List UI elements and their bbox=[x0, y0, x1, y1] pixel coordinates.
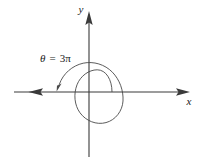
angle-spiral-group bbox=[57, 63, 123, 124]
angle-label: θ=3π bbox=[40, 52, 71, 64]
y-axis-label: y bbox=[78, 3, 84, 15]
x-axis-label: x bbox=[186, 95, 192, 107]
equals-symbol: = bbox=[49, 52, 55, 64]
figure-canvas: x y θ=3π bbox=[0, 0, 204, 166]
polar-angle-figure: x y θ=3π bbox=[0, 0, 204, 166]
theta-symbol: θ bbox=[40, 52, 46, 64]
angle-annotation-group: θ=3π bbox=[40, 52, 71, 64]
angle-spiral-path bbox=[58, 63, 123, 124]
angle-value: 3π bbox=[60, 52, 72, 64]
axes-group: x y bbox=[14, 3, 192, 157]
